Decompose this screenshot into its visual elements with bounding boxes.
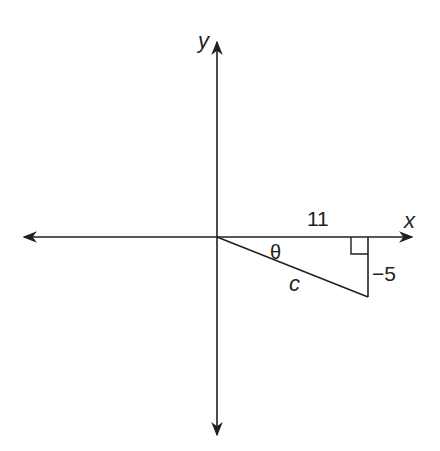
coordinate-plane: y x 11 −5 θ c [0,0,440,451]
hypotenuse-label: c [289,271,300,296]
angle-theta-label: θ [270,241,281,263]
right-angle-marker [351,237,368,254]
x-axis-label: x [403,208,416,233]
y-axis-label: y [196,28,211,53]
diagram-canvas: y x 11 −5 θ c [0,0,440,451]
vertical-leg-label: −5 [372,262,396,285]
horizontal-leg-label: 11 [307,207,329,230]
